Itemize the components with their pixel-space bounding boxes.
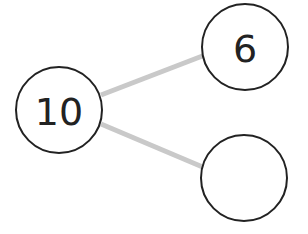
diagram-canvas: 10 6 [0, 0, 308, 234]
whole-value: 10 [35, 90, 83, 134]
part-bottom-circle-empty[interactable] [201, 135, 287, 221]
number-bond-diagram: 10 6 [0, 0, 308, 234]
edge-whole-to-top-part [101, 55, 205, 95]
edge-whole-to-bottom-part [101, 124, 205, 168]
part-top-value: 6 [233, 27, 257, 71]
node-part-bottom[interactable] [201, 135, 287, 221]
node-whole: 10 [16, 67, 102, 153]
node-part-top: 6 [202, 4, 288, 90]
